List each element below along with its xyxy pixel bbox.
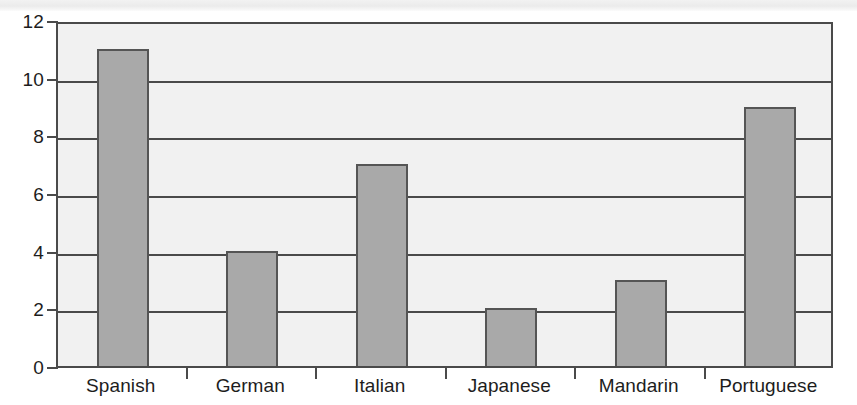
bar-mandarin	[615, 280, 667, 367]
y-tick-mark-2	[47, 309, 58, 311]
y-tick-mark-12	[47, 21, 58, 23]
bar-chart-figure: 024681012 SpanishGermanItalianJapaneseMa…	[0, 0, 857, 405]
bar-portuguese	[744, 107, 796, 367]
bars-group	[58, 24, 831, 366]
x-tick-label-portuguese: Portuguese	[704, 375, 834, 397]
y-tick-mark-8	[47, 136, 58, 138]
bar-german	[226, 251, 278, 366]
x-tick-mark-5	[704, 368, 706, 379]
y-tick-mark-0	[47, 367, 58, 369]
bar-spanish	[97, 49, 149, 366]
bar-italian	[356, 164, 408, 366]
x-tick-mark-3	[445, 368, 447, 379]
y-tick-mark-10	[47, 79, 58, 81]
bar-japanese	[485, 308, 537, 366]
page-scan-band	[0, 0, 857, 11]
plot-area	[56, 22, 833, 368]
y-tick-mark-6	[47, 194, 58, 196]
x-tick-mark-4	[574, 368, 576, 379]
x-tick-mark-1	[186, 368, 188, 379]
x-tick-label-italian: Italian	[315, 375, 445, 397]
x-tick-label-japanese: Japanese	[445, 375, 575, 397]
x-tick-mark-2	[315, 368, 317, 379]
x-tick-label-mandarin: Mandarin	[574, 375, 704, 397]
y-tick-mark-4	[47, 252, 58, 254]
x-tick-label-spanish: Spanish	[56, 375, 186, 397]
x-tick-label-german: German	[186, 375, 316, 397]
